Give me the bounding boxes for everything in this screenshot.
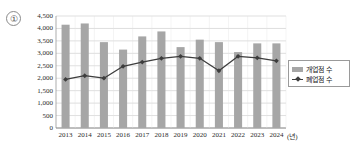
y-tick-label: 3,500 bbox=[25, 37, 53, 45]
y-tick-label: 500 bbox=[25, 112, 53, 120]
bar-2018 bbox=[157, 31, 165, 128]
bar-2015 bbox=[100, 42, 108, 128]
y-tick-label: 0 bbox=[25, 124, 53, 132]
x-axis-unit-label: (년) bbox=[287, 131, 298, 141]
legend-label-open-stores: 개업점 수 bbox=[306, 64, 332, 74]
bar-2016 bbox=[119, 50, 127, 128]
legend-item-closed-stores: 폐업점 수 bbox=[292, 74, 346, 84]
legend-item-open-stores: 개업점 수 bbox=[292, 64, 346, 74]
bar-2020 bbox=[196, 40, 204, 128]
x-tick-label: 2024 bbox=[263, 131, 289, 139]
y-tick-label: 1,500 bbox=[25, 87, 53, 95]
line-marker-swatch-icon bbox=[292, 76, 303, 83]
bar-2019 bbox=[177, 47, 185, 128]
y-tick-label: 1,000 bbox=[25, 99, 53, 107]
y-tick-label: 2,000 bbox=[25, 74, 53, 82]
bar-2021 bbox=[215, 42, 223, 128]
bar-swatch-icon bbox=[292, 67, 303, 72]
chart-legend: 개업점 수 폐업점 수 bbox=[288, 60, 350, 87]
bar-2022 bbox=[234, 52, 242, 128]
y-tick-label: 3,000 bbox=[25, 49, 53, 57]
y-tick-label: 2,500 bbox=[25, 62, 53, 70]
legend-label-closed-stores: 폐업점 수 bbox=[306, 74, 332, 84]
chart-figure: ① 개업점 수 폐업점 수 05001,0001,5002,0002,5003,… bbox=[0, 0, 358, 157]
bar-2013 bbox=[62, 25, 70, 128]
bar-2024 bbox=[272, 43, 280, 128]
bar-2017 bbox=[138, 36, 146, 128]
y-tick-label: 4,000 bbox=[25, 24, 53, 32]
y-tick-label: 4,500 bbox=[25, 12, 53, 20]
